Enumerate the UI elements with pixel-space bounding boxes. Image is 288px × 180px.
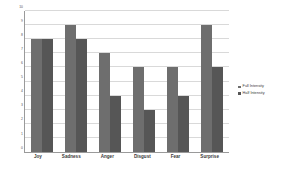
- y-axis-tick-label: 3: [21, 105, 23, 108]
- bar-anger-full: [99, 53, 110, 152]
- bar-surprise-full: [201, 25, 212, 152]
- bar-group-anger: [99, 11, 121, 152]
- y-axis-tick-label: 8: [21, 34, 23, 37]
- bar-group-surprise: [201, 11, 223, 152]
- x-axis-label-fear: Fear: [171, 155, 181, 167]
- y-axis-tick-label: 2: [21, 119, 23, 122]
- bar-group-disgust: [133, 11, 155, 152]
- bar-fear-half: [178, 96, 189, 152]
- bar-disgust-full: [133, 67, 144, 152]
- bar-fear-full: [167, 67, 178, 152]
- x-axis-label-surprise: Surprise: [200, 155, 219, 167]
- plot-area: 012345678910: [24, 11, 229, 153]
- y-axis-tick-label: 4: [21, 91, 23, 94]
- x-axis-label-anger: Anger: [101, 155, 114, 167]
- bar-sadness-full: [65, 25, 76, 152]
- bar-groups: [25, 11, 229, 152]
- y-axis-tick-label: 6: [21, 62, 23, 65]
- legend-label: Full Intensity: [243, 85, 264, 89]
- legend-label: Half Intensity: [243, 92, 265, 96]
- y-axis-tick-label: 10: [19, 6, 23, 9]
- y-axis-tick-label: 7: [21, 48, 23, 51]
- legend-item-full[interactable]: Full Intensity: [238, 85, 265, 89]
- y-axis-tick-label: 5: [21, 76, 23, 79]
- legend-swatch-icon: [238, 92, 241, 95]
- x-axis-label-joy: Joy: [34, 155, 42, 167]
- y-axis-tick-label: 1: [21, 133, 23, 136]
- legend-item-half[interactable]: Half Intensity: [238, 92, 265, 96]
- y-axis-tick-label: 9: [21, 20, 23, 23]
- bar-chart: 012345678910 JoySadnessAngerDisgustFearS…: [0, 0, 288, 180]
- chart-legend: Full IntensityHalf Intensity: [238, 85, 265, 96]
- bar-joy-half: [42, 39, 53, 152]
- y-axis-tick-label: 0: [21, 147, 23, 150]
- bar-surprise-half: [212, 67, 223, 152]
- legend-swatch-icon: [238, 86, 241, 89]
- bar-joy-full: [31, 39, 42, 152]
- bar-disgust-half: [144, 110, 155, 152]
- x-axis-category-labels: JoySadnessAngerDisgustFearSurprise: [24, 155, 229, 167]
- bar-sadness-half: [76, 39, 87, 152]
- bar-group-sadness: [65, 11, 87, 152]
- bar-group-joy: [31, 11, 53, 152]
- x-axis-label-disgust: Disgust: [134, 155, 151, 167]
- bar-anger-half: [110, 96, 121, 152]
- bar-group-fear: [167, 11, 189, 152]
- x-axis-label-sadness: Sadness: [62, 155, 81, 167]
